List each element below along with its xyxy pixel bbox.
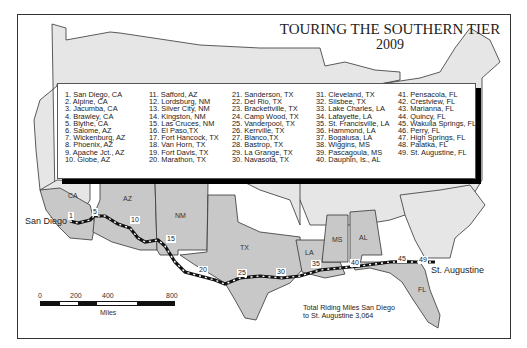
legend-column-1: 1. San Diego, CA 2. Alpine, CA 3. Jacumb… xyxy=(65,91,125,163)
route-marker: 45 xyxy=(397,255,407,263)
legend-column-5: 41. Pensacola, FL 42. Crestview, FL 43. … xyxy=(398,91,476,156)
route-marker: 1 xyxy=(68,212,74,220)
route-marker: 5 xyxy=(92,208,98,216)
scale-tick-label: 0 xyxy=(38,292,42,299)
route-marker: 10 xyxy=(130,216,140,224)
legend-item: 30. Navasota, TX xyxy=(232,156,299,163)
route-marker: 25 xyxy=(237,269,247,277)
state-label-fl: FL xyxy=(418,286,426,293)
map-title: TOURING THE SOUTHERN TIER 2009 xyxy=(270,22,510,52)
route-marker: 20 xyxy=(198,266,208,274)
route-marker: 35 xyxy=(311,260,321,268)
legend-item: 10. Globe, AZ xyxy=(65,156,125,163)
city-start-label: San Diego xyxy=(25,216,67,226)
scale-tick-label: 800 xyxy=(166,292,178,299)
state-label-ms: MS xyxy=(332,236,343,243)
state-label-nm: NM xyxy=(175,212,186,219)
legend-column-3: 21. Sanderson, TX 22. Del Rio, TX 23. Br… xyxy=(232,91,299,163)
route-marker: 30 xyxy=(276,268,286,276)
legend-item: 40. Dauphin, Is., AL xyxy=(316,156,390,163)
scale-bar-graphic xyxy=(40,301,175,306)
scale-tick-label: 200 xyxy=(70,292,82,299)
route-marker: 49 xyxy=(418,256,428,264)
title-line: TOURING THE SOUTHERN TIER xyxy=(270,22,510,37)
scale-unit: Miles xyxy=(100,309,116,316)
legend-column-4: 31. Cleveland, TX 32. Silsbee, TX 33. La… xyxy=(316,91,390,163)
legend-item: 49. St. Augustine, FL xyxy=(398,149,476,156)
route-marker: 40 xyxy=(350,259,360,267)
state-label-al: AL xyxy=(359,234,368,241)
route-marker: 15 xyxy=(166,235,176,243)
legend-column-2: 11. Safford, AZ 12. Lordsburg, NM 13. Si… xyxy=(149,91,219,163)
stops-legend: 1. San Diego, CA 2. Alpine, CA 3. Jacumb… xyxy=(57,83,476,179)
state-label-tx: TX xyxy=(240,244,249,251)
legend-item: 20. Marathon, TX xyxy=(149,156,219,163)
total-miles-note: Total Riding Miles San Diego to St. Augu… xyxy=(303,304,395,319)
scale-tick-label: 400 xyxy=(102,292,114,299)
state-label-la: LA xyxy=(305,249,314,256)
state-label-az: AZ xyxy=(123,195,132,202)
city-end-label: St. Augustine xyxy=(431,265,484,275)
title-year: 2009 xyxy=(270,37,510,52)
state-label-ca: CA xyxy=(68,192,78,199)
total-line-2: to St. Augustine 3,064 xyxy=(303,312,395,320)
